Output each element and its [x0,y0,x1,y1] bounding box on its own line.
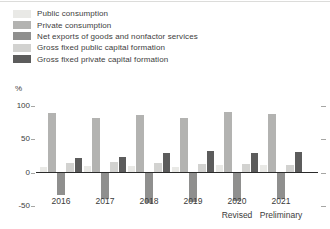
y-tick-mark-right [321,173,326,174]
chart-bar [119,157,127,172]
chart-bar [242,164,250,172]
y-tick-mark-right [321,106,326,107]
chart-bar [251,153,259,172]
x-tick-label: 2020 [215,196,259,206]
chart-bar [163,153,171,172]
zero-axis-line [36,172,318,173]
chart-bar [207,151,215,173]
x-tick-label: 2018 [127,196,171,206]
y-axis-unit-label: % [15,84,22,93]
x-tick-label: 2021 [259,196,303,206]
chart-bar [154,163,162,172]
chart-bar [66,163,74,172]
x-tick-label: 2016 [39,196,83,206]
chart-bar [48,113,56,172]
x-tick-sublabel: Preliminary [251,210,311,220]
x-tick-label: 2017 [83,196,127,206]
x-tick-label: 2019 [171,196,215,206]
chart-area: % 100500-5020162017201820192020Revised20… [0,0,330,229]
chart-bar [92,118,100,172]
y-tick-label: 100 [0,101,30,111]
y-tick-mark-right [321,206,326,207]
y-tick-mark-left [31,206,35,207]
chart-bar [295,152,303,172]
chart-bar [75,158,83,172]
chart-bar [277,173,285,199]
y-tick-label: 50 [0,134,30,144]
chart-bar [136,115,144,172]
chart-bar [110,162,118,172]
chart-bar [268,114,276,172]
y-tick-mark-right [321,139,326,140]
chart-bar [198,164,206,172]
chart-bar [224,112,232,172]
chart-bar [57,173,65,195]
chart-bar [180,118,188,172]
y-tick-mark-left [31,106,35,107]
y-tick-mark-left [31,173,35,174]
y-tick-mark-left [31,139,35,140]
y-tick-label: -50 [0,201,30,211]
y-tick-label: 0 [0,168,30,178]
